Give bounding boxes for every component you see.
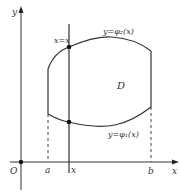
upper-intersection-point — [67, 45, 72, 50]
origin-point — [19, 160, 23, 164]
lower-intersection-point — [67, 120, 72, 125]
vertical-line-label: x=x — [54, 36, 70, 45]
upper-curve-label: y=φ₂(x) — [102, 27, 134, 36]
integration-region-diagram: y x O a x b x=x y=φ₂(x) y=φ₁(x) D — [0, 0, 180, 195]
y-axis-label: y — [11, 7, 18, 17]
y-axis-arrow-icon — [19, 6, 24, 13]
tick-label-b: b — [148, 166, 154, 176]
region-label: D — [116, 80, 125, 91]
origin-label: O — [10, 166, 18, 176]
lower-curve-label: y=φ₁(x) — [107, 130, 139, 139]
x-axis-label: x — [172, 166, 177, 176]
tick-label-a: a — [45, 165, 50, 175]
x-axis-arrow-icon — [172, 160, 179, 165]
lower-curve-phi1 — [48, 107, 151, 126]
tick-label-x: x — [71, 165, 76, 175]
